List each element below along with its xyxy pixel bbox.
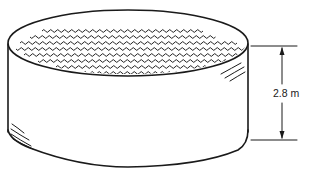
- tank-bottom-edge: [8, 130, 248, 167]
- arrow-up-icon: [280, 47, 285, 55]
- liquid-wave-line: [42, 30, 203, 33]
- liquid-wave-line: [38, 60, 234, 63]
- shading-lower-left: [11, 124, 33, 149]
- arrow-down-icon: [280, 131, 285, 139]
- liquid-wave-line: [30, 36, 216, 39]
- height-label: 2.8 m: [273, 87, 300, 99]
- liquid-wave-line: [16, 48, 247, 51]
- tank-diagram: 2.8 m: [0, 0, 309, 170]
- liquid-wave-line: [56, 66, 217, 69]
- height-dimension: 2.8 m: [251, 46, 300, 140]
- liquid-wave-line: [20, 42, 237, 45]
- liquid-wave-line: [24, 54, 241, 57]
- shading-right-rim: [221, 63, 245, 81]
